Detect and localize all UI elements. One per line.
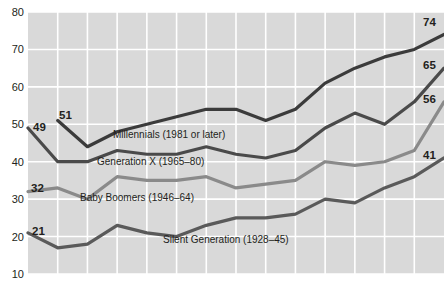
y-axis-tick-80: 80 bbox=[2, 7, 24, 18]
series-label-boomers: Baby Boomers (1946–64) bbox=[80, 192, 194, 203]
series-label-millennials: Millennials (1981 or later) bbox=[113, 129, 225, 140]
line-chart: 80 70 60 50 40 30 20 10 49 51 32 21 74 6… bbox=[0, 0, 444, 285]
end-label-silent: 41 bbox=[423, 150, 436, 161]
y-axis-tick-70: 70 bbox=[2, 44, 24, 55]
end-label-boomers: 56 bbox=[423, 94, 436, 105]
y-axis-tick-20: 20 bbox=[2, 232, 24, 243]
end-label-genx: 65 bbox=[423, 60, 436, 71]
end-label-millennials: 74 bbox=[423, 17, 436, 28]
y-axis-tick-50: 50 bbox=[2, 119, 24, 130]
start-label-boomers: 32 bbox=[31, 183, 44, 194]
y-axis-tick-10: 10 bbox=[2, 269, 24, 280]
y-axis-tick-30: 30 bbox=[2, 194, 24, 205]
start-label-silent: 21 bbox=[32, 226, 45, 237]
start-label-millennials: 51 bbox=[59, 110, 72, 121]
y-axis-tick-60: 60 bbox=[2, 82, 24, 93]
y-axis-tick-40: 40 bbox=[2, 157, 24, 168]
start-label-genx: 49 bbox=[33, 122, 46, 133]
series-label-genx: Generation X (1965–80) bbox=[97, 156, 204, 167]
series-label-silent: Silent Generation (1928–45) bbox=[163, 234, 289, 245]
